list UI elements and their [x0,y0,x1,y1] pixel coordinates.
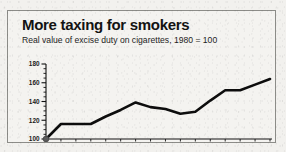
chart-title: More taxing for smokers [22,16,189,33]
series-line [46,79,270,139]
y-tick-label: 140 [29,98,40,105]
line-chart-svg: 100120140160180 198081828384858687888990… [8,47,275,142]
origin-marker [43,136,49,142]
y-tick-label: 100 [29,135,40,142]
y-axis: 100120140160180 [29,60,46,142]
y-tick-label: 160 [29,79,40,86]
origin-marker-group [43,136,49,142]
chart-subtitle: Real value of excise duty on cigarettes,… [22,35,217,45]
data-series [46,79,270,139]
y-tick-label: 120 [29,117,40,124]
plot-area: 100120140160180 198081828384858687888990… [8,47,275,142]
figure-canvas: More taxing for smokers Real value of ex… [0,0,286,152]
chart-panel: More taxing for smokers Real value of ex… [7,10,276,143]
x-axis: 1980818283848586878889909192939495 [39,139,274,142]
y-tick-label: 180 [29,60,40,67]
